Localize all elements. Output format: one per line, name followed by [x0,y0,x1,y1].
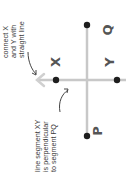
note-perpendicular: line segment XY is perpendicular to segm… [33,119,58,172]
note-connect-line-3: straight line [17,21,26,58]
point-q-dot [84,22,90,28]
label-y: Y [102,57,117,68]
perpendicular-diagram: X Y Q P connect X and Y with straight li… [0,0,126,174]
point-x-dot [53,77,59,83]
label-q: Q [100,24,115,35]
note-connect: connect X and Y with straight line [1,21,26,58]
perpendicular-pointer-arrow-icon [59,90,68,112]
note-perp-line-3: to segment PQ [49,124,58,172]
label-p: P [90,126,105,136]
point-y-dot [114,77,120,83]
connect-pointer-arrow-icon [28,52,36,74]
label-x: X [48,57,63,67]
